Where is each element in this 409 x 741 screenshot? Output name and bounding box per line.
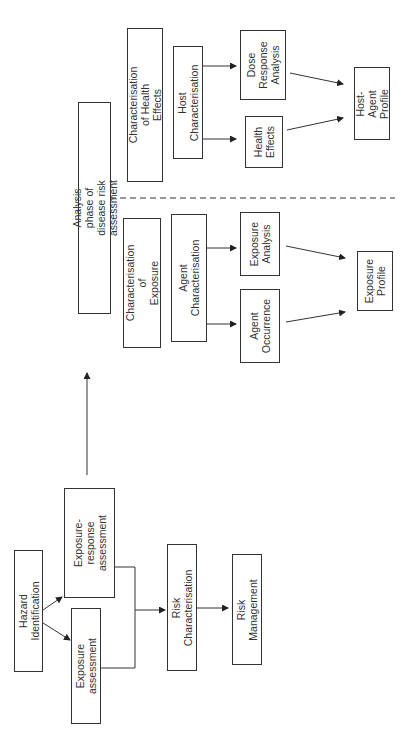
characterisation-health-effects-box: Characterisation of Health Effects <box>127 28 163 182</box>
analysis-phase-title-box: Analysis phase of disease risk assessmen… <box>78 102 111 314</box>
agent-occurrence-box: Agent Occurrence <box>240 289 280 363</box>
host-agent-profile-label: Host-Agent Profile <box>354 89 390 119</box>
risk-management-box: Risk Management <box>232 554 262 665</box>
exposure-analysis-label: Exposure Analysis <box>248 222 272 266</box>
dose-response-analysis-box: Dose Response Analysis <box>240 30 286 100</box>
risk-management-label: Risk Management <box>235 579 259 640</box>
host-characterisation-box: Host Characterisation <box>173 46 203 159</box>
exposure-response-assessment-label: Exposure-response assessment <box>72 515 108 571</box>
characterisation-exposure-box: Characterisation of Exposure <box>123 218 161 348</box>
host-characterisation-label: Host Characterisation <box>176 64 200 140</box>
exposure-profile-box: Exposure Profile <box>357 251 393 311</box>
exposure-assessment-box: Exposure assessment <box>71 608 101 724</box>
agent-characterisation-box: Agent Characterisation <box>171 214 207 342</box>
agent-characterisation-label: Agent Characterisation <box>177 240 201 316</box>
health-effects-label: Health Effects <box>252 126 276 158</box>
agent-occurrence-label: Agent Occurrence <box>248 299 272 353</box>
exposure-profile-label: Exposure Profile <box>363 259 387 303</box>
characterisation-exposure-label: Characterisation of Exposure <box>124 245 160 321</box>
analysis-phase-title: Analysis phase of disease risk assessmen… <box>71 180 119 236</box>
hazard-identification-box: Hazard Identification <box>14 550 43 672</box>
risk-characterisation-box: Risk Characterisation <box>167 544 197 671</box>
host-agent-profile-box: Host-Agent Profile <box>354 67 390 140</box>
connector-lines <box>0 0 409 741</box>
dose-response-analysis-label: Dose Response Analysis <box>245 41 281 88</box>
risk-characterisation-label: Risk Characterisation <box>170 569 194 645</box>
hazard-identification-label: Hazard Identification <box>17 582 41 641</box>
exposure-assessment-label: Exposure assessment <box>74 638 98 694</box>
exposure-response-assessment-box: Exposure-response assessment <box>64 488 115 598</box>
exposure-analysis-box: Exposure Analysis <box>240 212 280 276</box>
health-effects-box: Health Effects <box>245 116 283 168</box>
characterisation-health-effects-label: Characterisation of Health Effects <box>127 67 163 143</box>
